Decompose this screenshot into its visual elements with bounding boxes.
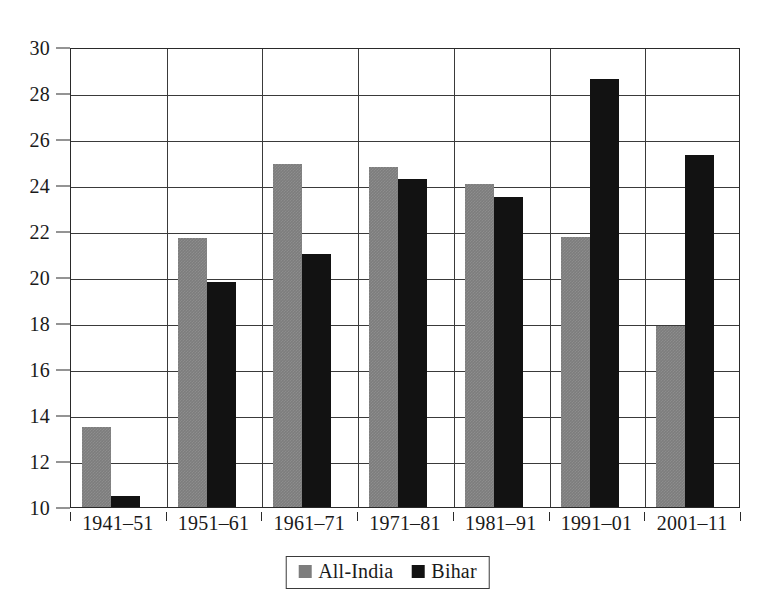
y-tick-label: 22 xyxy=(29,221,50,244)
y-tick-label: 10 xyxy=(29,497,50,520)
bar-all-india-195161 xyxy=(178,238,207,507)
x-tick-mark xyxy=(70,512,71,521)
bar-bihar-199101 xyxy=(590,79,619,507)
x-tick-mark xyxy=(549,512,550,521)
y-tick-mark xyxy=(56,324,70,325)
legend-item-all-india: All-India xyxy=(298,560,393,583)
x-gridline xyxy=(167,49,168,507)
bar-all-india-196171 xyxy=(273,164,302,507)
x-gridline xyxy=(454,49,455,507)
x-tick-mark xyxy=(166,512,167,521)
x-tick-mark xyxy=(644,512,645,521)
y-tick-mark xyxy=(56,462,70,463)
x-tick-label: 1991–01 xyxy=(561,512,632,535)
legend-label: Bihar xyxy=(431,560,476,583)
y-tick-label: 18 xyxy=(29,313,50,336)
chart-legend: All-IndiaBihar xyxy=(285,556,490,589)
legend-item-bihar: Bihar xyxy=(411,560,476,583)
y-tick-mark xyxy=(56,416,70,417)
y-gridline xyxy=(71,95,739,96)
y-tick-mark xyxy=(56,94,70,95)
black-swatch xyxy=(411,565,424,578)
y-gridline xyxy=(71,141,739,142)
x-tick-mark xyxy=(453,512,454,521)
y-tick-label: 16 xyxy=(29,359,50,382)
plot-area xyxy=(70,48,740,508)
x-tick-label: 1971–81 xyxy=(369,512,440,535)
x-gridline xyxy=(645,49,646,507)
y-tick-label: 24 xyxy=(29,175,50,198)
bar-bihar-196171 xyxy=(302,254,331,507)
gray-swatch xyxy=(298,565,311,578)
y-tick-mark xyxy=(56,186,70,187)
y-tick-label: 26 xyxy=(29,129,50,152)
legend-label: All-India xyxy=(318,560,393,583)
x-tick-label: 1961–71 xyxy=(274,512,345,535)
y-tick-mark xyxy=(56,232,70,233)
y-tick-mark xyxy=(56,370,70,371)
bar-bihar-197181 xyxy=(398,179,427,507)
bar-all-india-199101 xyxy=(561,237,590,507)
bar-bihar-200111 xyxy=(685,155,714,507)
y-tick-label: 12 xyxy=(29,451,50,474)
x-tick-mark xyxy=(261,512,262,521)
y-axis: 1012141618202224262830 xyxy=(0,48,70,508)
y-tick-mark xyxy=(56,508,70,509)
y-tick-mark xyxy=(56,48,70,49)
bar-bihar-195161 xyxy=(207,282,236,507)
y-tick-label: 28 xyxy=(29,83,50,106)
bar-all-india-200111 xyxy=(656,326,685,507)
bar-bihar-198191 xyxy=(494,197,523,508)
x-tick-mark xyxy=(357,512,358,521)
bar-all-india-197181 xyxy=(369,167,398,507)
y-tick-label: 14 xyxy=(29,405,50,428)
x-gridline xyxy=(358,49,359,507)
x-tick-label: 1951–61 xyxy=(178,512,249,535)
x-gridline xyxy=(262,49,263,507)
bar-all-india-194151 xyxy=(82,427,111,508)
x-axis: 1941–511951–611961–711971–811981–911991–… xyxy=(70,512,740,546)
x-tick-label: 1941–51 xyxy=(82,512,153,535)
x-tick-label: 1981–91 xyxy=(465,512,536,535)
bar-all-india-198191 xyxy=(465,184,494,507)
x-tick-mark xyxy=(740,512,741,521)
y-tick-mark xyxy=(56,278,70,279)
x-tick-label: 2001–11 xyxy=(657,512,728,535)
bar-bihar-194151 xyxy=(111,496,140,508)
y-tick-label: 30 xyxy=(29,37,50,60)
x-gridline xyxy=(550,49,551,507)
bar-chart: 1012141618202224262830 1941–511951–61196… xyxy=(0,0,775,612)
y-tick-mark xyxy=(56,140,70,141)
y-tick-label: 20 xyxy=(29,267,50,290)
